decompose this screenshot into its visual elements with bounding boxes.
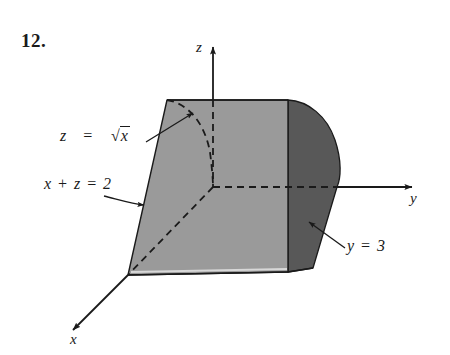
annotation-z-lhs: z — [60, 127, 67, 144]
annotation-z-equals-sqrt-x: z = √x — [60, 126, 130, 145]
annotation-y-equals-3: y = 3 — [347, 237, 386, 255]
axis-label-y: y — [410, 190, 417, 207]
annotation-equals-sign: = — [82, 127, 94, 144]
leader-x-plus-z — [104, 196, 144, 205]
annotation-x-plus-z-equals-2: x + z = 2 — [44, 175, 112, 193]
problem-number: 12. — [21, 30, 46, 52]
radicand: x — [120, 126, 130, 145]
figure-container: 12. z y x z = √x x + z = 2 y = 3 — [0, 0, 450, 355]
axis-label-z: z — [196, 39, 202, 56]
radical-group: √x — [109, 126, 130, 145]
solid-right-face-y3 — [288, 100, 340, 272]
axis-x — [73, 275, 128, 330]
axis-label-x: x — [70, 331, 77, 348]
